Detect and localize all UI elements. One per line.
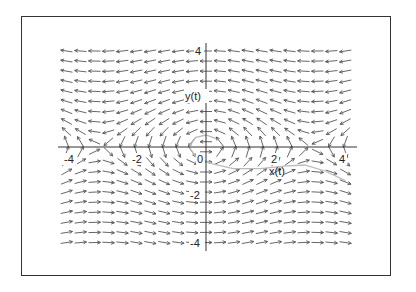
field-arrow xyxy=(258,127,266,136)
x-axis-label: x(t) xyxy=(269,165,285,177)
y-tick-label: -4 xyxy=(190,237,200,249)
field-arrow xyxy=(89,81,101,82)
field-arrow xyxy=(173,128,182,135)
field-arrow xyxy=(216,137,223,146)
field-arrow xyxy=(257,118,267,125)
x-tick-labels: -4-2024 xyxy=(63,153,347,165)
field-arrow xyxy=(145,169,155,176)
field-arrow xyxy=(258,157,266,166)
y-tick-label: -2 xyxy=(190,189,200,201)
field-arrow xyxy=(244,127,252,136)
field-arrow xyxy=(285,158,295,165)
field-arrow xyxy=(117,128,127,135)
field-arrow xyxy=(174,158,183,166)
y-tick-label: 4 xyxy=(195,45,201,57)
field-arrow xyxy=(312,101,324,102)
y-axis-label: y(t) xyxy=(185,90,201,102)
field-arrow xyxy=(312,91,324,92)
field-arrow xyxy=(118,158,128,165)
field-arrow xyxy=(229,128,238,135)
field-arrow xyxy=(299,148,308,156)
field-arrow xyxy=(257,169,267,176)
x-tick-label: 4 xyxy=(339,153,345,165)
field-arrow xyxy=(299,138,308,146)
field-arrow xyxy=(132,127,141,135)
field-arrow xyxy=(217,147,224,157)
solution-trajectory xyxy=(189,135,345,181)
field-arrow xyxy=(160,158,168,167)
field-arrow xyxy=(62,128,71,136)
field-arrow xyxy=(89,192,101,193)
x-tick-label: -4 xyxy=(64,153,74,165)
field-arrow xyxy=(271,127,280,135)
field-arrow xyxy=(298,51,310,52)
field-arrow xyxy=(89,91,101,92)
field-arrow xyxy=(160,127,168,136)
field-arrow xyxy=(102,51,114,52)
field-arrow xyxy=(312,81,324,82)
field-arrow xyxy=(285,128,295,135)
field-arrow xyxy=(312,202,324,203)
x-tick-label: 0 xyxy=(197,153,203,165)
field-arrow xyxy=(102,61,114,62)
field-arrow xyxy=(146,157,154,166)
field-arrow xyxy=(298,242,310,243)
field-arrow xyxy=(244,158,252,167)
field-arrow xyxy=(104,138,113,146)
field-arrow xyxy=(229,158,238,166)
field-arrow xyxy=(341,128,350,136)
phase-plane-plot: -4-2024 42-2-4 y(t) x(t) xyxy=(0,0,416,292)
x-tick-label: 2 xyxy=(271,153,277,165)
field-arrow xyxy=(104,148,113,156)
field-arrow xyxy=(89,101,101,102)
field-arrow xyxy=(145,118,155,125)
x-tick-label: -2 xyxy=(132,153,142,165)
field-arrow xyxy=(146,127,154,136)
